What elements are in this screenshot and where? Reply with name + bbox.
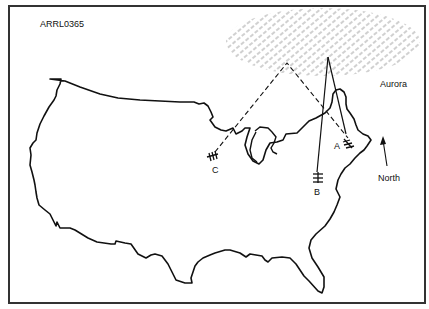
- figure-id-label: ARRL0365: [40, 19, 84, 29]
- path-c-dashed: [215, 63, 348, 152]
- antenna-icon-a: [343, 139, 354, 148]
- north-arrow-icon: [380, 136, 387, 166]
- station-c-label: C: [212, 165, 219, 175]
- aurora-region: [226, 8, 420, 76]
- us-map-diagram: [0, 0, 429, 309]
- aurora-label: Aurora: [380, 79, 407, 89]
- antenna-icon-c: [207, 151, 218, 161]
- us-outline: [30, 79, 371, 293]
- station-b-label: B: [314, 187, 320, 197]
- station-a-label: A: [334, 141, 340, 151]
- north-label: North: [378, 173, 400, 183]
- antenna-icon-b: [313, 172, 323, 183]
